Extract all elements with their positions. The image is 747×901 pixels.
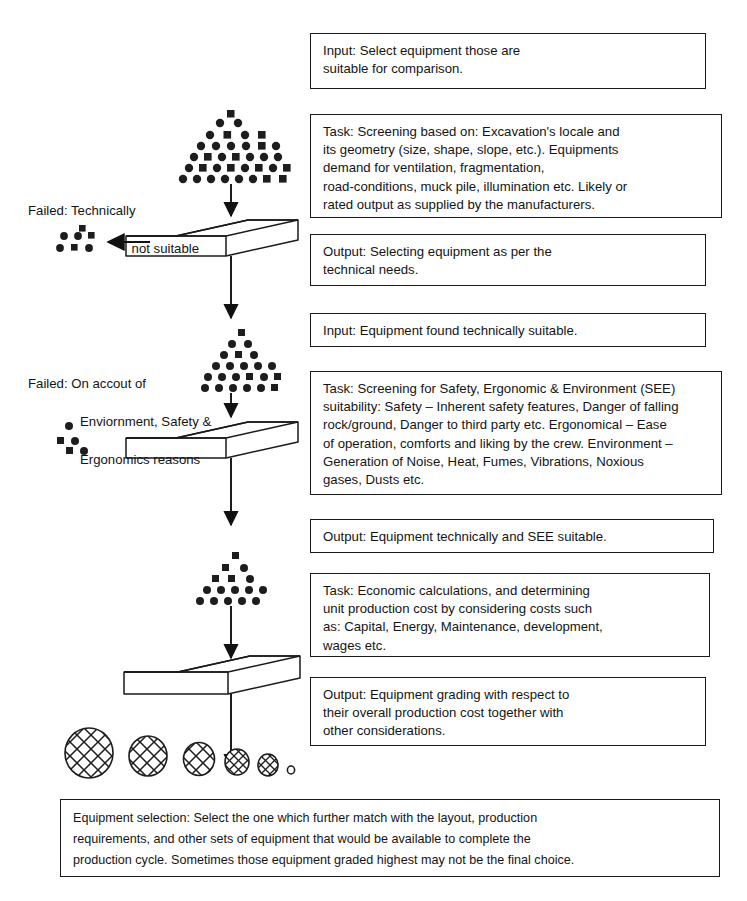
output-box-3: Output: Equipment grading with respect t…	[310, 677, 706, 746]
graded-ellipse-4	[225, 749, 249, 775]
graded-ellipse-6	[287, 766, 294, 774]
failed-technical-label: Failed: Technically not suitable	[28, 182, 213, 277]
output-box-1: Output: Selecting equipment as per the t…	[310, 234, 706, 286]
output-box-2: Output: Equipment technically and SEE su…	[310, 519, 714, 553]
input-box-1: Input: Select equipment those are suitab…	[310, 33, 706, 89]
equipment-pyramid-3	[196, 552, 267, 605]
task-box-2: Task: Screening for Safety, Ergonomic & …	[310, 371, 722, 495]
failed-technical-line-2: not suitable	[28, 239, 213, 258]
graded-ellipse-5	[258, 754, 278, 776]
failed-see-label: Failed: On accout of Enviornment, Safety…	[28, 355, 233, 488]
graded-equipment-ellipses	[65, 728, 295, 778]
failed-see-line-3: Ergonomics reasons	[28, 450, 233, 469]
final-selection-box: Equipment selection: Select the one whic…	[60, 799, 720, 877]
failed-see-line-2: Enviornment, Safety &	[28, 412, 233, 431]
task-box-1: Task: Screening based on: Excavation's l…	[310, 114, 722, 218]
task-box-3: Task: Economic calculations, and determi…	[310, 573, 710, 657]
graded-ellipse-3	[184, 743, 215, 776]
flowchart-page: Input: Select equipment those are suitab…	[0, 0, 747, 901]
graded-ellipse-2	[129, 736, 167, 776]
failed-see-line-1: Failed: On accout of	[28, 374, 233, 393]
input-box-2: Input: Equipment found technically suita…	[310, 313, 706, 347]
failed-technical-line-1: Failed: Technically	[28, 201, 213, 220]
screening-slab-3	[124, 656, 300, 694]
equipment-pyramid-1	[179, 110, 291, 183]
graded-ellipse-1	[65, 728, 113, 778]
